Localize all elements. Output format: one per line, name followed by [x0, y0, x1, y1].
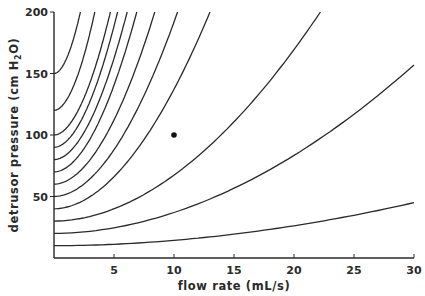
pressure-flow-curve [54, 12, 210, 209]
y-axis-title: detrusor pressure (cm H2O) [7, 38, 23, 233]
x-tick-label: 25 [346, 264, 361, 277]
pressure-flow-curve [54, 12, 320, 221]
x-tick-label: 10 [166, 264, 182, 277]
y-ticks: 50100150200 [25, 6, 54, 204]
y-tick-label: 150 [25, 68, 48, 81]
data-points [171, 132, 177, 138]
x-tick-label: 30 [406, 264, 422, 277]
pressure-flow-curve [54, 12, 137, 172]
pressure-flow-curve [54, 203, 414, 246]
data-point-marker [171, 132, 177, 138]
y-tick-label: 100 [25, 129, 48, 142]
x-axis-title: flow rate (mL/s) [178, 279, 291, 293]
x-tick-label: 15 [226, 264, 241, 277]
y-tick-label: 50 [33, 191, 49, 204]
pressure-flow-curve [54, 12, 95, 110]
x-tick-label: 5 [110, 264, 118, 277]
pressure-flow-curve [54, 12, 80, 74]
chart: 51015202530 50100150200 flow rate (mL/s)… [0, 0, 425, 296]
curves [54, 12, 414, 246]
pressure-flow-curve [54, 12, 118, 147]
y-tick-label: 200 [25, 6, 48, 19]
pressure-flow-curve [54, 65, 414, 234]
x-tick-label: 20 [286, 264, 302, 277]
pressure-flow-curve [54, 12, 178, 197]
